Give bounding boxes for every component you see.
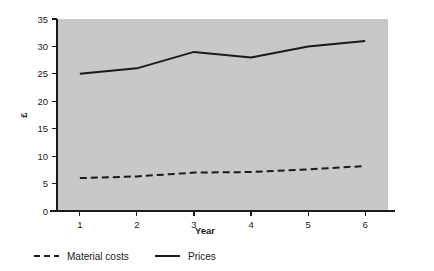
x-tick-label-1: 1 — [77, 219, 82, 230]
y-tick-label-10: 10 — [37, 151, 48, 162]
x-tick-label-5: 5 — [305, 219, 310, 230]
legend-label-prices: Prices — [188, 251, 216, 262]
x-tick-label-2: 2 — [134, 219, 139, 230]
y-tick-label-30: 30 — [37, 41, 48, 52]
y-tick-label-0: 0 — [43, 206, 48, 217]
y-tick-label-15: 15 — [37, 123, 48, 134]
x-tick-label-4: 4 — [248, 219, 253, 230]
y-axis-title: £ — [18, 112, 29, 118]
chart-canvas: 05101520253035 123456 Year £ Material co… — [0, 0, 434, 271]
legend-label-material-costs: Material costs — [67, 251, 129, 262]
line-chart-figure: 05101520253035 123456 Year £ Material co… — [0, 0, 434, 271]
x-tick-label-6: 6 — [363, 219, 368, 230]
x-axis-title: Year — [195, 225, 215, 236]
y-tick-label-20: 20 — [37, 96, 48, 107]
y-tick-label-35: 35 — [37, 14, 48, 25]
y-tick-label-25: 25 — [37, 68, 48, 79]
y-tick-label-5: 5 — [43, 178, 48, 189]
plot-area-background — [57, 19, 388, 211]
